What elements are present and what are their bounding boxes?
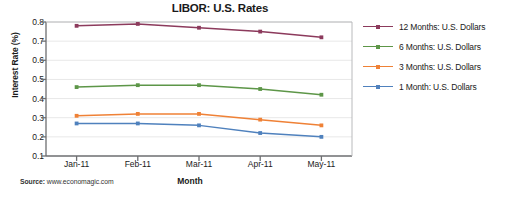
legend-label: 1 Month: U.S. Dollars xyxy=(399,82,477,92)
chart-title: LIBOR: U.S. Rates xyxy=(0,2,440,14)
data-point xyxy=(136,112,140,116)
legend-swatch-icon xyxy=(363,22,393,31)
data-point xyxy=(320,35,324,39)
x-tick-label: Mar-11 xyxy=(171,159,227,169)
plot-svg xyxy=(0,16,360,166)
legend-item-2[interactable]: 3 Months: U.S. Dollars xyxy=(363,58,521,75)
data-point xyxy=(197,26,201,30)
data-point xyxy=(75,114,79,118)
data-point xyxy=(197,83,201,87)
x-tick-label: Apr-11 xyxy=(232,159,288,169)
data-point xyxy=(320,135,324,139)
data-point xyxy=(136,83,140,87)
x-tick-label: Jan-11 xyxy=(49,159,105,169)
x-tick-label: Feb-11 xyxy=(110,159,166,169)
data-point xyxy=(258,30,262,34)
data-point xyxy=(258,131,262,135)
legend-swatch-icon xyxy=(363,82,393,91)
chart-figure: LIBOR: U.S. Rates Interest Rate (%) 0.80… xyxy=(0,0,521,200)
data-point xyxy=(75,85,79,89)
legend-label: 6 Months: U.S. Dollars xyxy=(399,42,481,52)
source-url: www.economagic.com xyxy=(45,178,114,185)
data-point xyxy=(197,112,201,116)
data-point xyxy=(136,22,140,26)
legend-marker-icon xyxy=(376,25,380,29)
data-point xyxy=(136,122,140,126)
legend-marker-icon xyxy=(376,45,380,49)
legend-item-1[interactable]: 6 Months: U.S. Dollars xyxy=(363,38,521,55)
legend-marker-icon xyxy=(376,65,380,69)
chart-legend: 12 Months: U.S. Dollars6 Months: U.S. Do… xyxy=(363,18,521,98)
legend-swatch-icon xyxy=(363,62,393,71)
legend-label: 3 Months: U.S. Dollars xyxy=(399,62,481,72)
data-point xyxy=(75,122,79,126)
x-tick-label: May-11 xyxy=(293,159,349,169)
data-point xyxy=(320,123,324,127)
data-point xyxy=(258,118,262,122)
legend-label: 12 Months: U.S. Dollars xyxy=(399,22,485,32)
legend-marker-icon xyxy=(376,85,380,89)
data-point xyxy=(320,93,324,97)
legend-swatch-icon xyxy=(363,42,393,51)
plot-area: Interest Rate (%) 0.80.70.60.50.40.30.20… xyxy=(0,16,360,166)
source-label: Source: xyxy=(20,178,45,185)
data-point xyxy=(197,123,201,127)
legend-item-0[interactable]: 12 Months: U.S. Dollars xyxy=(363,18,521,35)
legend-item-3[interactable]: 1 Month: U.S. Dollars xyxy=(363,78,521,95)
source-note: Source: www.economagic.com xyxy=(20,178,114,185)
data-point xyxy=(258,87,262,91)
data-point xyxy=(75,24,79,28)
